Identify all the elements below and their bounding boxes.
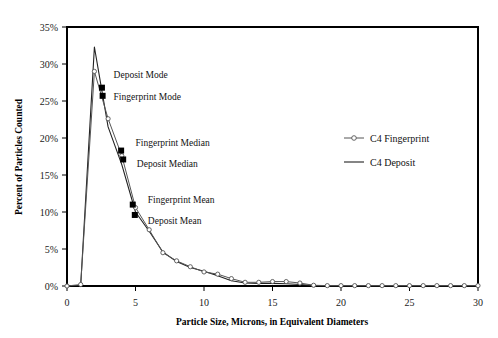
fingerprint-data-point bbox=[216, 272, 220, 276]
x-tick-label: 5 bbox=[133, 297, 138, 308]
fingerprint-data-point bbox=[147, 228, 151, 232]
x-tick-label: 0 bbox=[65, 297, 70, 308]
particle-size-distribution-chart: 0%5%10%15%20%25%30%35% 051015202530 Depo… bbox=[0, 0, 498, 338]
y-tick-label: 25% bbox=[40, 96, 58, 107]
annotation-label: Deposit Mode bbox=[114, 70, 168, 80]
fingerprint-data-point bbox=[325, 284, 329, 288]
legend-marker-fingerprint bbox=[352, 136, 357, 141]
fingerprint-data-point bbox=[106, 117, 110, 121]
fingerprint-data-point bbox=[380, 284, 384, 288]
fingerprint-data-point bbox=[435, 284, 439, 288]
fingerprint-data-point bbox=[421, 284, 425, 288]
fingerprint-data-point bbox=[257, 280, 261, 284]
annotation-label: Deposit Mean bbox=[148, 216, 202, 226]
y-tick-label: 35% bbox=[40, 22, 58, 33]
annotation-label: Fingerprint Median bbox=[136, 138, 210, 148]
chart-container: 0%5%10%15%20%25%30%35% 051015202530 Depo… bbox=[0, 0, 498, 338]
y-tick-label: 15% bbox=[40, 170, 58, 181]
fingerprint-data-point bbox=[353, 284, 357, 288]
annotation-marker bbox=[100, 93, 106, 99]
annotation-marker bbox=[120, 156, 126, 162]
fingerprint-data-point bbox=[284, 279, 288, 283]
fingerprint-data-point bbox=[229, 277, 233, 281]
fingerprint-data-point bbox=[298, 281, 302, 285]
annotation-marker bbox=[130, 202, 136, 208]
x-tick-label: 25 bbox=[405, 297, 415, 308]
fingerprint-data-point bbox=[476, 284, 480, 288]
fingerprint-data-point bbox=[394, 284, 398, 288]
y-tick-label: 20% bbox=[40, 133, 58, 144]
fingerprint-data-point bbox=[312, 283, 316, 287]
y-tick-label: 10% bbox=[40, 207, 58, 218]
fingerprint-data-point bbox=[161, 251, 165, 255]
annotation-marker bbox=[132, 212, 138, 218]
fingerprint-data-point bbox=[65, 284, 69, 288]
annotation-label: Deposit Median bbox=[137, 159, 198, 169]
annotation-marker bbox=[118, 148, 124, 154]
fingerprint-data-point bbox=[188, 265, 192, 269]
x-tick-label: 10 bbox=[199, 297, 209, 308]
fingerprint-data-point bbox=[243, 280, 247, 284]
fingerprint-data-point bbox=[175, 259, 179, 263]
fingerprint-data-point bbox=[79, 282, 83, 286]
annotation-label: Fingerprint Mode bbox=[114, 92, 181, 102]
legend-label-fingerprint: C4 Fingerprint bbox=[370, 133, 429, 144]
x-axis-title: Particle Size, Microns, in Equivalent Di… bbox=[176, 317, 368, 327]
y-axis-title: Percent of Particles Counted bbox=[14, 98, 24, 215]
fingerprint-data-point bbox=[202, 270, 206, 274]
fingerprint-data-point bbox=[339, 284, 343, 288]
legend-label-deposit: C4 Deposit bbox=[370, 157, 416, 168]
fingerprint-data-point bbox=[449, 284, 453, 288]
y-tick-label: 30% bbox=[40, 59, 58, 70]
fingerprint-data-point bbox=[462, 284, 466, 288]
y-tick-label: 5% bbox=[45, 244, 58, 255]
annotation-label: Fingerprint Mean bbox=[148, 195, 215, 205]
fingerprint-data-point bbox=[407, 284, 411, 288]
annotation-marker bbox=[99, 85, 105, 91]
x-tick-label: 20 bbox=[336, 297, 346, 308]
x-tick-label: 30 bbox=[473, 297, 483, 308]
fingerprint-data-point bbox=[270, 279, 274, 283]
fingerprint-data-point bbox=[366, 284, 370, 288]
x-tick-label: 15 bbox=[268, 297, 278, 308]
fingerprint-data-point bbox=[92, 69, 96, 73]
y-tick-label: 0% bbox=[45, 281, 58, 292]
